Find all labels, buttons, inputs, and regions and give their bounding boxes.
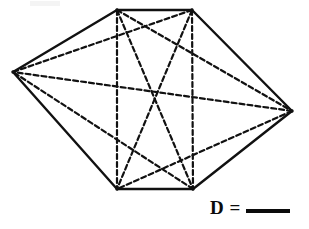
diagonal-CE <box>117 111 292 189</box>
vertex-bottom-left <box>115 187 118 190</box>
hexagon-edge-CD <box>193 111 292 189</box>
figure-page: D = <box>0 0 309 229</box>
vertex-bottom-right <box>191 187 194 190</box>
hexagon-edge-BC <box>192 10 292 111</box>
answer-blank-field[interactable] <box>246 209 290 213</box>
diagonal-AC <box>117 10 292 111</box>
answer-label: D = <box>210 198 241 218</box>
vertex-left <box>11 70 14 73</box>
diagonal-BD <box>192 10 193 189</box>
answer-prompt: D = <box>210 198 290 218</box>
hexagon-diagonals-figure <box>0 0 309 229</box>
vertex-top-left <box>115 8 118 11</box>
vertex-right <box>290 109 293 112</box>
diagonals-group <box>13 10 292 189</box>
vertex-top-right <box>190 8 193 11</box>
